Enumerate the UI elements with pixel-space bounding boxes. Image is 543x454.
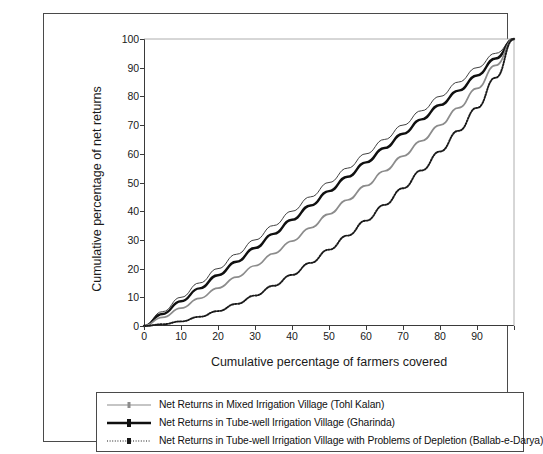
x-tick-label-30: 30 [249, 330, 260, 342]
y-tick-label-30: 30 [128, 235, 139, 245]
y-tick-label-60: 60 [128, 149, 139, 159]
x-tick-label-80: 80 [434, 330, 445, 342]
series-line-0 [144, 39, 514, 326]
plot-area-wrapper [144, 39, 514, 326]
x-tick-label-60: 60 [360, 330, 371, 342]
y-tick-label-20: 20 [128, 264, 139, 274]
y-tick-label-70: 70 [128, 120, 139, 130]
legend-marker-thick-black-line-icon [105, 416, 153, 430]
x-tick-label-20: 20 [212, 330, 223, 342]
x-tick-label-70: 70 [397, 330, 408, 342]
x-tick-label-90: 90 [471, 330, 482, 342]
legend-label: Net Returns in Mixed Irrigation Village … [159, 399, 384, 411]
y-tick-label-10: 10 [128, 292, 139, 302]
x-axis-tick-labels: 0102030405060708090 [144, 330, 514, 346]
x-tick-label-40: 40 [286, 330, 297, 342]
figure-frame: Cumulative percentage of net returns 010… [43, 13, 508, 442]
y-tick-label-0: 0 [133, 321, 139, 331]
legend-item-tubewell-irrigation[interactable]: Net Returns in Tube-well Irrigation Vill… [105, 414, 395, 432]
y-tick-label-100: 100 [122, 34, 139, 44]
y-tick-label-40: 40 [128, 206, 139, 216]
x-tick-label-50: 50 [323, 330, 334, 342]
x-tick-label-10: 10 [175, 330, 186, 342]
legend-item-tubewell-depletion[interactable]: Net Returns in Tube-well Irrigation Vill… [105, 432, 543, 450]
legend-marker-gray-line-icon [105, 398, 153, 412]
x-tick-label-0: 0 [141, 330, 147, 342]
chart-legend: Net Returns in Mixed Irrigation Village … [96, 392, 524, 452]
y-axis-title: Cumulative percentage of net returns [90, 74, 104, 304]
legend-label: Net Returns in Tube-well Irrigation Vill… [159, 417, 395, 429]
legend-marker-dotted-line-icon [105, 434, 153, 448]
y-tick-label-80: 80 [128, 91, 139, 101]
legend-label: Net Returns in Tube-well Irrigation Vill… [159, 435, 543, 447]
y-tick-label-50: 50 [128, 178, 139, 188]
x-tick-mark-100 [514, 326, 515, 330]
lorenz-curves-svg [144, 39, 514, 326]
x-axis-title: Cumulative percentage of farmers covered [144, 355, 514, 369]
y-axis-tick-labels: 0102030405060708090100 [106, 39, 139, 326]
y-tick-label-90: 90 [128, 63, 139, 73]
legend-item-mixed-irrigation[interactable]: Net Returns in Mixed Irrigation Village … [105, 396, 384, 414]
